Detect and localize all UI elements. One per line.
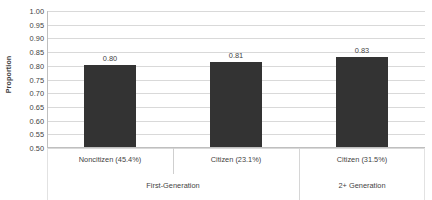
band-left-edge <box>47 148 48 200</box>
y-axis-tick-label: 0.90 <box>30 34 44 43</box>
bar-value-label: 0.80 <box>103 54 117 63</box>
category-label: Citizen (23.1%) <box>211 155 262 164</box>
category-separator-tick <box>173 148 174 174</box>
bar <box>210 62 262 147</box>
bar-chart: Proportion 1.000.950.900.850.800.750.700… <box>0 0 432 200</box>
y-axis-tick-label: 0.65 <box>30 102 44 111</box>
y-axis-title-text: Proportion <box>5 55 14 93</box>
y-axis-tick-label: 0.75 <box>30 75 44 84</box>
group-label: 2+ Generation <box>338 181 385 190</box>
plot-area: 0.800.810.83 <box>47 11 425 148</box>
y-axis-tick-label: 0.80 <box>30 61 44 70</box>
category-label: Citizen (31.5%) <box>337 155 388 164</box>
y-axis-tick-label: 0.60 <box>30 116 44 125</box>
gridline <box>47 25 425 26</box>
y-axis-tick-label: 0.55 <box>30 130 44 139</box>
y-axis-tick-label: 1.00 <box>30 7 44 16</box>
y-axis-tick-label: 0.95 <box>30 20 44 29</box>
category-label-row: Noncitizen (45.4%)Citizen (23.1%)Citizen… <box>47 148 425 174</box>
y-axis-tick-label: 0.85 <box>30 48 44 57</box>
bar <box>336 57 388 147</box>
gridline <box>47 38 425 39</box>
gridline <box>47 11 425 12</box>
group-label-row: First-Generation2+ Generation <box>47 174 425 200</box>
bar <box>84 65 136 147</box>
category-label: Noncitizen (45.4%) <box>79 155 141 164</box>
y-axis-line <box>47 11 48 148</box>
y-axis-tick-label: 0.50 <box>30 144 44 153</box>
y-axis-title: Proportion <box>0 0 18 148</box>
bar-value-label: 0.81 <box>229 51 243 60</box>
bar-value-label: 0.83 <box>355 46 369 55</box>
category-label-band: Noncitizen (45.4%)Citizen (23.1%)Citizen… <box>47 148 425 200</box>
group-label: First-Generation <box>146 181 199 190</box>
y-axis-tick-labels: 1.000.950.900.850.800.750.700.650.600.55… <box>18 0 46 160</box>
group-separator-line <box>299 148 300 200</box>
band-right-edge <box>424 148 425 200</box>
y-axis-tick-label: 0.70 <box>30 89 44 98</box>
